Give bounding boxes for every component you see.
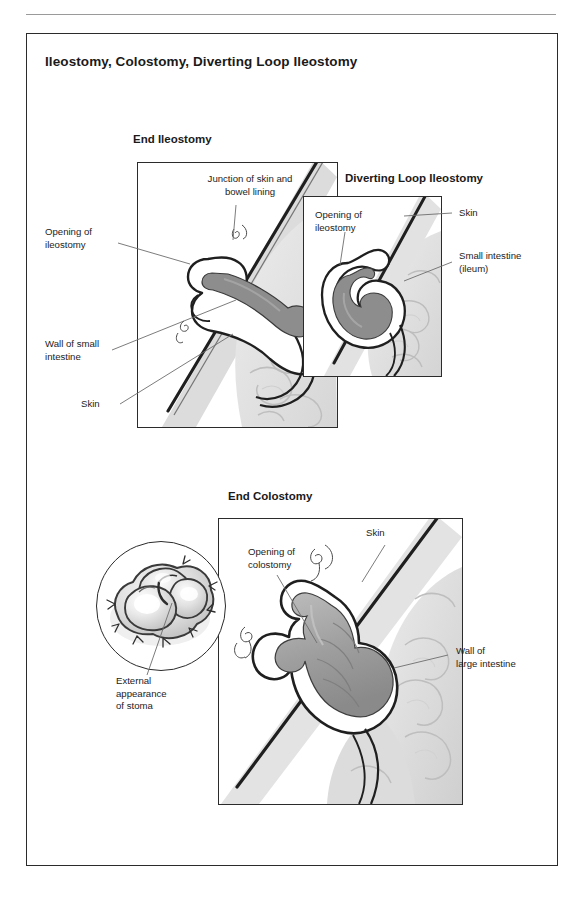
stoma-artwork <box>97 542 223 668</box>
label-external-appearance-of-stoma: External appearance of stoma <box>116 675 198 713</box>
label-wall-of-small-intestine: Wall of small intestine <box>45 338 125 363</box>
header-divider-rule <box>26 14 556 15</box>
label-junction-of-skin-and-bowel-lining: Junction of skin and bowel lining <box>190 173 310 198</box>
stoma-external-appearance-inset <box>96 541 226 671</box>
label-opening-of-ileostomy-diverting: Opening of ileostomy <box>315 209 395 234</box>
panel-heading-end-colostomy: End Colostomy <box>228 490 312 502</box>
label-opening-of-ileostomy: Opening of ileostomy <box>45 226 123 251</box>
label-small-intestine-ileum: Small intestine (ileum) <box>459 250 549 275</box>
label-skin-end-ileostomy: Skin <box>81 398 127 411</box>
label-opening-of-colostomy: Opening of colostomy <box>248 546 328 571</box>
panel-heading-end-ileostomy: End Ileostomy <box>133 133 212 145</box>
page-title: Ileostomy, Colostomy, Diverting Loop Ile… <box>45 54 357 69</box>
panel-heading-diverting-loop-ileostomy: Diverting Loop Ileostomy <box>345 172 483 184</box>
label-skin-diverting: Skin <box>459 207 509 220</box>
illustration-page: Ileostomy, Colostomy, Diverting Loop Ile… <box>0 0 586 897</box>
label-skin-end-colostomy: Skin <box>366 527 412 540</box>
label-wall-of-large-intestine: Wall of large intestine <box>456 645 552 670</box>
